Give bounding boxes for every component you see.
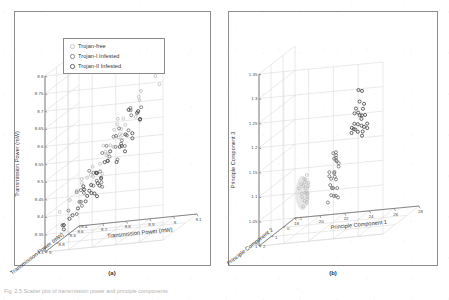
legend-label-trojan-ii: Trojan-II Infested (78, 63, 121, 69)
svg-text:1.2: 1.2 (251, 145, 258, 150)
svg-text:8.4: 8.4 (81, 224, 88, 229)
svg-text:8.6: 8.6 (77, 229, 84, 234)
svg-text:-1: -1 (298, 216, 302, 221)
svg-text:20: 20 (319, 219, 324, 224)
svg-text:8.65: 8.65 (35, 126, 44, 131)
svg-text:8.55: 8.55 (35, 162, 44, 167)
svg-text:8.5: 8.5 (37, 179, 44, 184)
svg-text:8.7: 8.7 (37, 109, 44, 114)
svg-text:1.35: 1.35 (249, 72, 258, 77)
svg-text:9.1: 9.1 (195, 217, 202, 222)
legend-item-trojan-i: Trojan-I Infested (67, 51, 160, 61)
circle-open-light-icon (67, 43, 78, 50)
legend-label-trojan-free: Trojan-free (78, 43, 106, 49)
svg-text:8.4: 8.4 (37, 214, 44, 219)
panel-b-svg: 182022242628Principle Component 111.051.… (229, 12, 437, 265)
panel-a-legend: Trojan-free Trojan-I Infested Trojan-II … (63, 38, 165, 74)
legend-label-trojan-i: Trojan-I Infested (78, 53, 119, 59)
svg-text:8.6: 8.6 (70, 233, 77, 238)
svg-text:24: 24 (368, 214, 373, 219)
svg-text:18: 18 (294, 221, 299, 226)
svg-text:8.8: 8.8 (37, 74, 44, 79)
legend-item-trojan-free: Trojan-free (67, 41, 160, 51)
svg-text:1.05: 1.05 (249, 219, 258, 224)
svg-text:1.1: 1.1 (251, 194, 258, 199)
svg-text:8.45: 8.45 (35, 197, 44, 202)
svg-text:Principle Component 1: Principle Component 1 (330, 219, 387, 230)
panel-a-sublabel: (a) (97, 270, 127, 276)
panel-a: 8.68.78.88.999.1Transmission Power (mW)8… (14, 11, 211, 266)
legend-item-trojan-ii: Trojan-II Infested (67, 61, 160, 71)
svg-text:Principle Component 2: Principle Component 2 (226, 227, 274, 266)
svg-text:28: 28 (418, 209, 423, 214)
svg-text:1.15: 1.15 (249, 170, 258, 175)
circle-open-dark-icon (67, 63, 78, 70)
panel-b: 182022242628Principle Component 111.051.… (228, 11, 438, 266)
svg-text:8.9: 8.9 (148, 222, 155, 227)
svg-text:8.6: 8.6 (37, 144, 44, 149)
svg-text:8.8: 8.8 (58, 242, 65, 247)
svg-text:22: 22 (344, 216, 349, 221)
panel-b-plot-area: 182022242628Principle Component 111.051.… (229, 12, 437, 265)
svg-text:8.8: 8.8 (125, 224, 132, 229)
svg-text:8.7: 8.7 (101, 227, 108, 232)
figure-container: 8.68.78.88.999.1Transmission Power (mW)8… (0, 0, 449, 300)
svg-text:1.25: 1.25 (249, 121, 258, 126)
figure-caption: Fig. 2.5 Scatter plot of transmission po… (4, 288, 444, 294)
svg-text:Principle Component 3: Principle Component 3 (230, 132, 236, 189)
svg-text:8.75: 8.75 (35, 91, 44, 96)
svg-text:26: 26 (393, 212, 398, 217)
svg-text:Transmission Power (mW): Transmission Power (mW) (9, 231, 65, 276)
panel-b-sublabel: (b) (318, 270, 348, 276)
svg-text:8.35: 8.35 (35, 232, 44, 237)
svg-text:Transmission Power (mW): Transmission Power (mW) (14, 131, 20, 197)
svg-text:1.3: 1.3 (251, 96, 258, 101)
circle-open-mid-icon (67, 53, 78, 60)
